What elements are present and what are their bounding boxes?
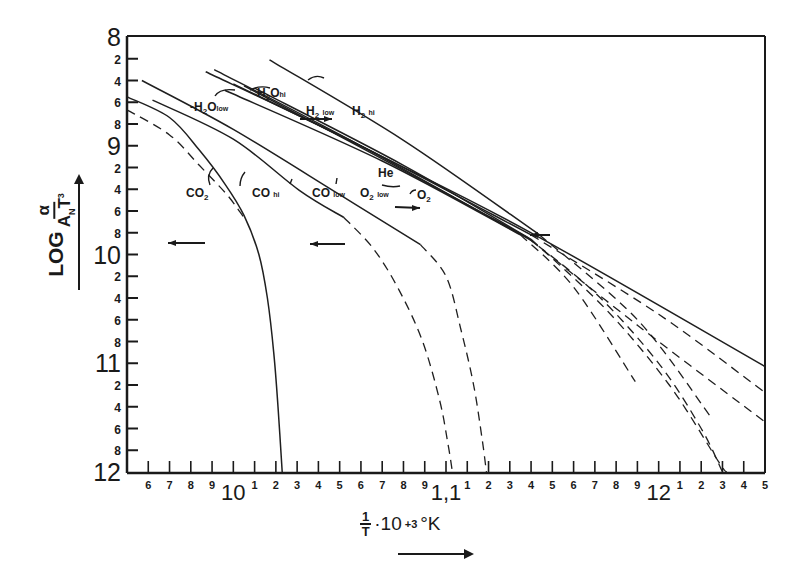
x-label-denominator: T: [362, 525, 370, 538]
annotation-o2-hi: O2: [417, 188, 431, 204]
series-h2o-low-extrap: [520, 235, 635, 382]
x-tick-label: 8: [613, 479, 619, 491]
x-tick-label: 6: [358, 479, 364, 491]
x-tick-label: 2: [273, 479, 279, 491]
y-tick-label: 2: [114, 53, 121, 67]
y-den-t: T: [55, 198, 74, 208]
annotation-he: He: [378, 166, 393, 180]
y-tick-label: 4: [114, 401, 121, 415]
x-axis-ticks: 6789101234567891,11234567891212345: [145, 461, 768, 505]
x-axis-label: 1 T ·10+3°K: [360, 510, 441, 538]
y-den-a: A: [55, 215, 74, 227]
y-tick-label: 8: [114, 227, 121, 241]
series-h2-hi-extrap: [540, 235, 710, 416]
y-label-numerator: α: [35, 202, 55, 218]
y-tick-label: 11: [95, 349, 121, 377]
annotation-co2: CO2: [186, 186, 208, 202]
x-tick-label: 4: [741, 479, 748, 491]
annotation-h2-low: H2 low: [306, 104, 334, 120]
annotation-co-hi: CO hi: [252, 186, 280, 200]
x-tick-label: 7: [592, 479, 598, 491]
series-he-extrap: [527, 237, 723, 472]
x-tick-label: 10: [221, 480, 245, 505]
y-tick-label: 4: [114, 292, 121, 306]
annotation-h2o-low: -H2Olow: [190, 100, 228, 116]
series-h2-low-extrap: [531, 235, 765, 393]
x-label-fraction: 1 T: [360, 510, 371, 538]
y-label-denominator: ANT3: [55, 193, 76, 227]
x-tick-label: 9: [209, 479, 215, 491]
x-tick-label: 3: [294, 479, 300, 491]
x-tick-label: 12: [646, 480, 670, 505]
annotation-h2o-hi: H2Ohi: [257, 86, 286, 102]
x-label-numerator: 1: [360, 510, 371, 525]
x-tick-label: 5: [549, 479, 555, 491]
x-tick-label: 9: [422, 479, 428, 491]
x-tick-label: 8: [188, 479, 194, 491]
y-label-log: LOG: [44, 231, 68, 277]
series-h2o-hi: [233, 84, 765, 367]
series-co2: [127, 97, 282, 472]
x-tick-label: 7: [379, 479, 385, 491]
annotation-h2-hi: H2 hi: [352, 104, 375, 120]
y-tick-label: 2: [114, 379, 121, 393]
up-arrow-icon: [78, 182, 80, 290]
y-tick-label: 6: [114, 423, 121, 437]
y-tick-label: 2: [114, 270, 121, 284]
y-tick-label: 8: [114, 336, 121, 350]
y-tick-label: 9: [107, 132, 121, 160]
y-tick-label: 8: [114, 118, 121, 132]
x-label-exponent: +3: [405, 518, 418, 530]
series-co-low-extrap: [421, 245, 487, 472]
chart-canvas: 824689246810246811246812 678910123456789…: [0, 0, 803, 584]
data-series: [127, 60, 765, 472]
y-tick-label: 10: [93, 241, 121, 269]
x-label-unit: °K: [420, 513, 440, 535]
annotation-co-low: CO low: [312, 186, 345, 200]
x-tick-label: 7: [166, 479, 172, 491]
y-tick-label: 2: [114, 162, 121, 176]
y-tick-label: 6: [114, 314, 121, 328]
x-tick-label: 1,1: [431, 480, 462, 505]
x-tick-label: 9: [634, 479, 640, 491]
y-tick-label: 6: [114, 205, 121, 219]
y-axis-ticks: 824689246810246811246812: [93, 23, 138, 486]
annotation-o2-low: O2 low: [360, 186, 389, 202]
y-tick-label: 6: [114, 96, 121, 110]
x-tick-label: 4: [315, 479, 322, 491]
x-tick-label: 6: [145, 479, 151, 491]
x-tick-label: 6: [571, 479, 577, 491]
y-tick-label: 4: [114, 183, 121, 197]
x-tick-label: 5: [337, 479, 343, 491]
x-tick-label: 3: [507, 479, 513, 491]
x-tick-label: 1: [677, 479, 683, 491]
series-h2-hi: [270, 60, 540, 235]
y-label-fraction: α ANT3: [35, 193, 76, 227]
x-tick-label: 4: [528, 479, 535, 491]
y-axis-label: LOG α ANT3: [18, 170, 88, 300]
series-co-hi-extrap: [344, 218, 453, 473]
x-tick-label: 8: [400, 479, 406, 491]
right-arrow-icon: [398, 553, 466, 555]
y-tick-label: 12: [93, 458, 121, 486]
y-tick-label: 8: [107, 23, 121, 51]
x-tick-label: 1: [252, 479, 258, 491]
x-tick-label: 5: [762, 479, 768, 491]
x-tick-label: 3: [719, 479, 725, 491]
y-tick-label: 4: [114, 75, 121, 89]
series-o2-hi-extrap: [531, 239, 727, 472]
x-tick-label: 2: [485, 479, 491, 491]
y-den-sup: 3: [56, 193, 66, 198]
x-tick-label: 1: [464, 479, 470, 491]
y-tick-label: 8: [114, 444, 121, 458]
x-tick-label: 2: [698, 479, 704, 491]
y-den-sub: N: [67, 209, 77, 216]
x-label-multiplier: ·10: [374, 513, 401, 535]
